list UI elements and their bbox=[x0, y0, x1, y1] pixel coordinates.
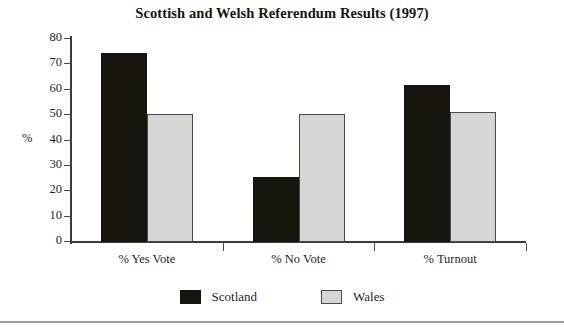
bar-scotland-turnout bbox=[404, 85, 450, 242]
bar-wales-turnout bbox=[450, 112, 496, 242]
y-axis-tick-label: 30 bbox=[22, 158, 62, 171]
y-axis-tick-value: 10 bbox=[36, 209, 62, 222]
x-axis-tick bbox=[526, 243, 527, 251]
y-axis-tick-value: 40 bbox=[36, 133, 62, 146]
y-axis-tick-label: 40 bbox=[22, 133, 62, 146]
legend-swatch-icon bbox=[180, 290, 201, 304]
x-axis-tick bbox=[223, 243, 224, 251]
bar-wales-no-vote bbox=[299, 114, 345, 242]
bottom-divider bbox=[0, 321, 564, 323]
y-axis-tick-value: 70 bbox=[36, 56, 62, 69]
y-axis-tick-label: 10 bbox=[22, 209, 62, 222]
bar-scotland-yes-vote bbox=[101, 53, 147, 242]
y-axis-tick-value: 80 bbox=[36, 31, 62, 44]
x-axis-category-label: % Turnout bbox=[374, 252, 526, 267]
y-axis-tick-value: 60 bbox=[36, 82, 62, 95]
legend-item-label: Wales bbox=[353, 289, 384, 305]
legend-item-wales: Wales bbox=[321, 289, 384, 305]
legend-swatch-icon bbox=[321, 290, 342, 304]
y-axis-tick-label: 80 bbox=[22, 31, 62, 44]
legend-item-scotland: Scotland bbox=[180, 289, 258, 305]
bar-scotland-no-vote bbox=[253, 177, 299, 242]
plot-area bbox=[71, 38, 524, 242]
y-axis-tick-value: 20 bbox=[36, 183, 62, 196]
y-axis-tick-label: 50 bbox=[22, 107, 62, 120]
y-axis-tick-value: 50 bbox=[36, 107, 62, 120]
y-axis-tick-value: 0 bbox=[36, 234, 62, 247]
page-title: Scottish and Welsh Referendum Results (1… bbox=[0, 5, 564, 22]
y-axis-tick-label: 0 bbox=[22, 234, 62, 247]
y-axis-tick-value: 30 bbox=[36, 158, 62, 171]
y-axis-tick-label: 20 bbox=[22, 183, 62, 196]
bar-wales-yes-vote bbox=[147, 114, 193, 242]
x-axis-tick bbox=[374, 243, 375, 251]
x-axis-category-label: % Yes Vote bbox=[71, 252, 223, 267]
chart-legend: ScotlandWales bbox=[0, 289, 564, 305]
legend-item-label: Scotland bbox=[212, 289, 258, 305]
x-axis-category-label: % No Vote bbox=[223, 252, 375, 267]
y-axis-tick-label: 70 bbox=[22, 56, 62, 69]
y-axis-tick-label: 60 bbox=[22, 82, 62, 95]
